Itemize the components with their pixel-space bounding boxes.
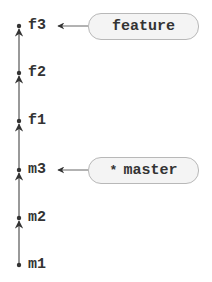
- commit-label-f1: f1: [28, 113, 46, 129]
- commit-dot-f2: [17, 71, 21, 75]
- branch-pill-feature: feature: [88, 13, 199, 40]
- commit-dot-f1: [17, 119, 21, 123]
- commit-graph: f3 f2 f1 m3 m2 m1 feature * master: [0, 0, 212, 282]
- commit-dot-f3: [17, 24, 21, 28]
- commit-label-f2: f2: [28, 65, 46, 81]
- commit-label-m2: m2: [28, 210, 46, 226]
- graph-lines: [0, 0, 212, 282]
- branch-name-master: master: [123, 162, 177, 179]
- current-branch-star-icon: *: [110, 163, 118, 178]
- branch-name-feature: feature: [112, 18, 175, 35]
- commit-dot-m3: [17, 168, 21, 172]
- commit-dot-m1: [17, 263, 21, 267]
- commit-label-f3: f3: [28, 18, 46, 34]
- commit-label-m1: m1: [28, 257, 46, 273]
- branch-pill-master: * master: [88, 157, 199, 184]
- commit-dot-m2: [17, 216, 21, 220]
- commit-label-m3: m3: [28, 162, 46, 178]
